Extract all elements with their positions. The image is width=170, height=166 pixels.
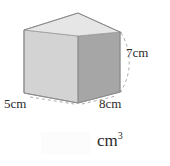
cuboid-right-face bbox=[78, 32, 120, 103]
cuboid-left-face bbox=[24, 30, 78, 103]
height-leader-line bbox=[121, 33, 129, 91]
dimension-label-depth: 5cm bbox=[4, 96, 26, 112]
volume-question-figure: 5cm 8cm 7cm cm3 bbox=[0, 0, 170, 166]
volume-answer-input[interactable] bbox=[41, 132, 90, 155]
height-leader-dot-top bbox=[119, 31, 121, 33]
unit-exponent-text: 3 bbox=[118, 130, 123, 141]
dimension-label-width: 8cm bbox=[99, 96, 121, 112]
unit-label-cubic-centimetres: cm3 bbox=[97, 131, 123, 151]
height-leader-dot-bottom bbox=[119, 90, 121, 92]
answer-row: cm3 bbox=[0, 128, 170, 166]
unit-base-text: cm bbox=[97, 131, 118, 150]
dimension-label-height: 7cm bbox=[126, 45, 148, 61]
